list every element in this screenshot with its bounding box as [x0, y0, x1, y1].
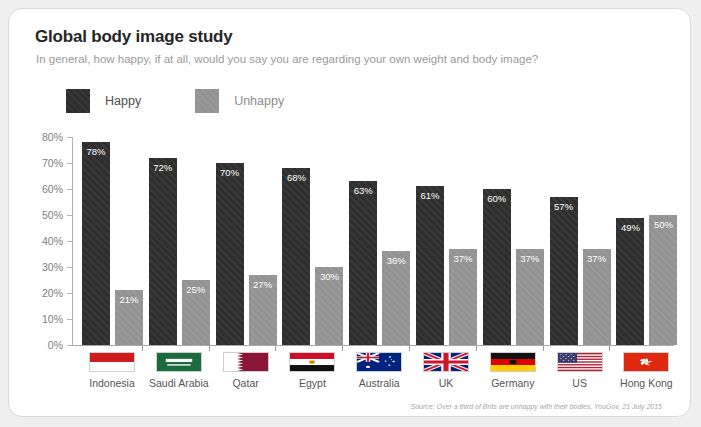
bar-group: 49%50%: [616, 137, 677, 345]
bar-happy[interactable]: 68%: [282, 168, 310, 345]
y-axis-tick-label: 40%: [42, 235, 63, 247]
bar-group: 60%37%: [483, 137, 544, 345]
legend-swatch-happy-icon: [66, 89, 90, 113]
y-axis-tick-label: 20%: [42, 287, 63, 299]
bar-group: 57%37%: [550, 137, 611, 345]
legend-label-happy: Happy: [105, 94, 141, 108]
page-title: Global body image study: [35, 27, 233, 47]
bar-group: 63%36%: [349, 137, 410, 345]
chart-subtitle: In general, how happy, if at all, would …: [36, 53, 538, 65]
legend-label-unhappy: Unhappy: [234, 94, 284, 108]
bar-happy[interactable]: 78%: [82, 142, 110, 345]
x-axis-category-label: Hong Kong: [601, 377, 691, 389]
y-axis-tick-mark: [67, 267, 72, 268]
bar-value-label: 49%: [616, 222, 644, 233]
bar-value-label: 61%: [416, 190, 444, 201]
bar-value-label: 63%: [349, 185, 377, 196]
bar-value-label: 36%: [382, 255, 410, 266]
chart-card: Global body image study In general, how …: [8, 8, 691, 417]
bar-value-label: 30%: [315, 271, 343, 282]
bar-unhappy[interactable]: 50%: [649, 215, 677, 345]
y-axis-tick-label: 10%: [42, 313, 63, 325]
bar-happy[interactable]: 63%: [349, 181, 377, 345]
bar-value-label: 50%: [649, 219, 677, 230]
bar-value-label: 27%: [249, 279, 277, 290]
bar-group: 70%27%: [216, 137, 277, 345]
bar-value-label: 25%: [182, 284, 210, 295]
bar-happy[interactable]: 60%: [483, 189, 511, 345]
bar-value-label: 37%: [449, 253, 477, 264]
source-note: Source: Over a third of Brits are unhapp…: [411, 403, 663, 410]
bar-unhappy[interactable]: 25%: [182, 280, 210, 345]
y-axis-tick-mark: [67, 137, 72, 138]
flag-indonesia-icon: [89, 352, 135, 372]
bar-unhappy[interactable]: 27%: [249, 275, 277, 345]
y-axis-tick-label: 60%: [42, 183, 63, 195]
flag-qatar-icon: [223, 352, 269, 372]
bar-happy[interactable]: 72%: [149, 158, 177, 345]
y-axis-tick-label: 70%: [42, 157, 63, 169]
x-axis-tick-mark: [543, 346, 544, 351]
y-axis-labels: 0%10%20%30%40%50%60%70%80%: [9, 9, 63, 427]
bar-happy[interactable]: 49%: [616, 218, 644, 345]
flag-australia-icon: [356, 352, 402, 372]
bar-unhappy[interactable]: 37%: [516, 249, 544, 345]
x-axis-tick-mark: [609, 346, 610, 351]
y-axis-tick-label: 0%: [48, 339, 63, 351]
bar-value-label: 78%: [82, 146, 110, 157]
y-axis-tick-mark: [67, 319, 72, 320]
bar-group: 61%37%: [416, 137, 477, 345]
bar-value-label: 37%: [516, 253, 544, 264]
bar-value-label: 68%: [282, 172, 310, 183]
bar-unhappy[interactable]: 30%: [315, 267, 343, 345]
y-axis-tick-mark: [67, 189, 72, 190]
legend-swatch-unhappy-icon: [195, 89, 219, 113]
flag-egypt-icon: [289, 352, 335, 372]
x-axis-line: [72, 345, 674, 346]
y-axis-tick-mark: [67, 345, 72, 346]
bar-group: 72%25%: [149, 137, 210, 345]
bar-value-label: 72%: [149, 162, 177, 173]
plot-area: 78%21%72%25%70%27%68%30%63%36%61%37%60%3…: [73, 137, 673, 345]
y-axis-tick-mark: [67, 215, 72, 216]
bar-group: 68%30%: [282, 137, 343, 345]
y-axis-tick-label: 30%: [42, 261, 63, 273]
bar-unhappy[interactable]: 37%: [449, 249, 477, 345]
bar-group: 78%21%: [82, 137, 143, 345]
y-axis-tick-mark: [67, 293, 72, 294]
legend-item-happy[interactable]: Happy: [66, 89, 141, 113]
flag-germany-icon: [490, 352, 536, 372]
y-axis-tick-mark: [67, 163, 72, 164]
y-axis-tick-mark: [67, 241, 72, 242]
y-axis-tick-label: 80%: [42, 131, 63, 143]
x-axis-tick-mark: [409, 346, 410, 351]
chart-legend: Happy Unhappy: [66, 89, 284, 113]
flag-hong-kong-icon: [623, 352, 669, 372]
bar-value-label: 21%: [115, 294, 143, 305]
bar-unhappy[interactable]: 37%: [583, 249, 611, 345]
flag-us-icon: [557, 352, 603, 372]
bar-happy[interactable]: 57%: [550, 197, 578, 345]
bar-value-label: 57%: [550, 201, 578, 212]
x-axis-tick-mark: [476, 346, 477, 351]
bar-value-label: 37%: [583, 253, 611, 264]
bar-happy[interactable]: 61%: [416, 186, 444, 345]
x-axis-tick-mark: [342, 346, 343, 351]
x-axis-tick-mark: [209, 346, 210, 351]
bar-value-label: 60%: [483, 193, 511, 204]
y-axis-tick-label: 50%: [42, 209, 63, 221]
bar-happy[interactable]: 70%: [216, 163, 244, 345]
legend-item-unhappy[interactable]: Unhappy: [195, 89, 284, 113]
bar-unhappy[interactable]: 21%: [115, 290, 143, 345]
x-axis-tick-mark: [275, 346, 276, 351]
flag-saudi-arabia-icon: [156, 352, 202, 372]
bar-unhappy[interactable]: 36%: [382, 251, 410, 345]
bar-value-label: 70%: [216, 167, 244, 178]
x-axis-tick-mark: [142, 346, 143, 351]
flag-uk-icon: [423, 352, 469, 372]
